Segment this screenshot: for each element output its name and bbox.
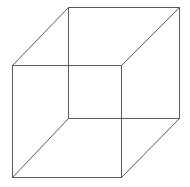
depth-edge-bottom-right <box>122 119 180 178</box>
necker-cube-diagram <box>0 0 190 187</box>
depth-edge-bottom-left <box>13 119 69 178</box>
depth-edge-top-right <box>122 8 180 66</box>
cube-edges <box>13 8 180 178</box>
depth-edge-top-left <box>13 8 69 66</box>
